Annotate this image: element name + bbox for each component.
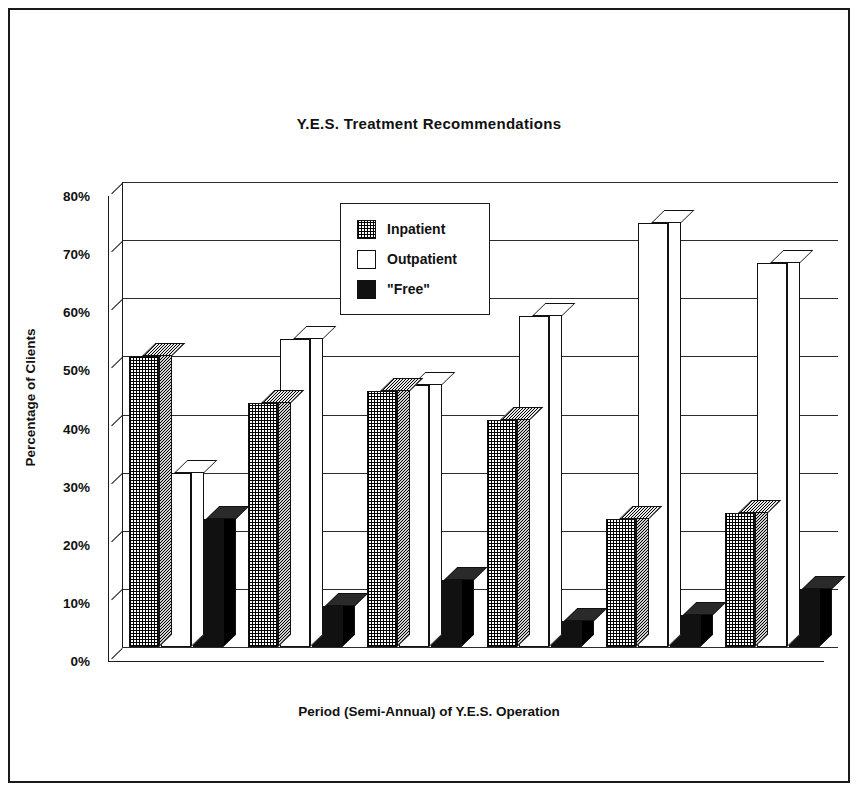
bar-inpatient (248, 182, 278, 647)
bar-side-face (159, 344, 172, 647)
bar-top-face (564, 608, 607, 621)
y-tick-label: 20% (36, 537, 90, 552)
y-tick-mark (111, 241, 122, 252)
y-tick-mark (111, 415, 122, 426)
bar-inpatient (129, 182, 159, 647)
bar-front (248, 403, 278, 647)
y-tick-mark (111, 589, 122, 600)
bar-side-face (397, 379, 410, 647)
bar-top-face (206, 506, 249, 519)
y-tick-mark (111, 473, 122, 484)
y-axis-line-3d (108, 196, 109, 661)
bar-side-face (223, 507, 236, 647)
y-tick-label: 60% (36, 305, 90, 320)
bar-side-face (636, 507, 649, 647)
bar-front (606, 519, 636, 647)
bar-side-face (668, 210, 681, 647)
y-tick-mark (111, 648, 122, 659)
bar-side-face (429, 373, 442, 647)
bar-side-face (755, 501, 768, 647)
bar-side-face (310, 326, 323, 647)
y-tick-mark (111, 531, 122, 542)
bar-front (487, 420, 517, 647)
bar-inpatient (725, 182, 755, 647)
bar-inpatient (487, 182, 517, 647)
bar-top-face (444, 567, 487, 580)
bar-side-face (278, 390, 291, 647)
y-tick-label: 70% (36, 247, 90, 262)
y-axis-line (122, 182, 123, 647)
figure-frame: Y.E.S. Treatment Recommendations 0%10%20… (8, 8, 850, 783)
bar-side-face (549, 303, 562, 647)
gridline (122, 647, 838, 648)
bar-front (129, 356, 159, 647)
y-tick-mark (111, 357, 122, 368)
x-axis-line-3d (108, 661, 824, 662)
y-tick-label: 30% (36, 479, 90, 494)
y-tick-label: 80% (36, 189, 90, 204)
bar-top-face (802, 576, 845, 589)
y-axis-title: Percentage of Clients (23, 198, 38, 598)
y-tick-label: 0% (36, 654, 90, 669)
bar-inpatient (367, 182, 397, 647)
y-tick-label: 40% (36, 421, 90, 436)
bar-top-face (683, 602, 726, 615)
y-tick-mark (111, 299, 122, 310)
y-tick-label: 50% (36, 363, 90, 378)
bar-top-face (325, 593, 368, 606)
x-axis-title: Period (Semi-Annual) of Y.E.S. Operation (10, 704, 848, 719)
y-tick-label: 10% (36, 595, 90, 610)
bar-side-face (517, 408, 530, 647)
bar-inpatient (606, 182, 636, 647)
bar-side-face (787, 251, 800, 647)
bar-side-face (191, 460, 204, 647)
bar-front (367, 391, 397, 647)
y-tick-mark (111, 183, 122, 194)
chart-title: Y.E.S. Treatment Recommendations (10, 115, 848, 132)
bar-front (725, 513, 755, 647)
